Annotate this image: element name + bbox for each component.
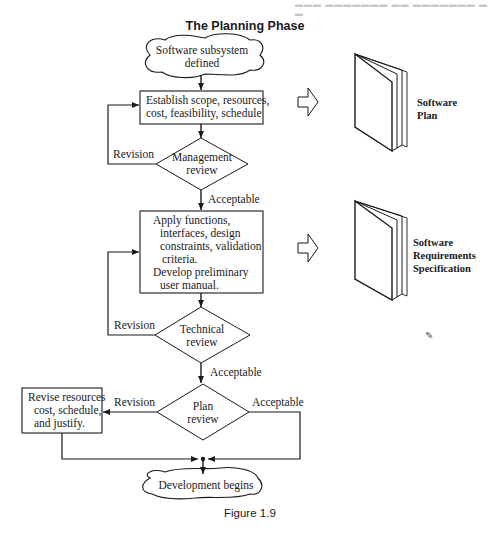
apply-line-5: Develop preliminary (153, 266, 262, 279)
plan-acceptable-label: Acceptable (252, 396, 304, 409)
technical-revision-label: Revision (114, 319, 155, 332)
establish-node-label: Establish scope, resources, cost, feasib… (146, 94, 269, 120)
start-node-label: Software subsystem defined (150, 44, 254, 70)
end-node-label: Development begins (150, 479, 262, 492)
apply-line-4: criteria. (153, 253, 262, 266)
technical-review-label: Technical review (166, 323, 238, 349)
document-booklet-icon (355, 201, 407, 300)
srs-output-line-3: Specification (413, 262, 476, 275)
plan-line-1: Plan (172, 400, 234, 413)
establish-line-1: Establish scope, resources, (146, 94, 269, 107)
hollow-arrow-icon (298, 234, 318, 262)
hollow-arrow-icon (298, 88, 318, 116)
establish-line-2: cost, feasibility, schedule (146, 107, 269, 120)
management-review-label: Management review (166, 151, 238, 177)
apply-line-3: constraints, validation (153, 240, 262, 253)
apply-line-2: interfaces, design (153, 227, 262, 240)
management-revision-label: Revision (113, 148, 154, 161)
srs-output-line-2: Requirements (413, 249, 476, 262)
apply-node-label: Apply functions, interfaces, design cons… (153, 214, 262, 292)
planning-phase-flowchart: ▬▬▬ ▬▬▬▬▬▬▬ ▬▬ ▬▬▬▬▬▬▬ ▬ ▬ (0, 0, 492, 538)
plan-review-label: Plan review (172, 400, 234, 426)
output-software-plan-label: Software Plan (417, 96, 457, 122)
plan-output-line-2: Plan (417, 109, 457, 122)
technical-acceptable-label: Acceptable (210, 366, 262, 379)
output-srs-label: Software Requirements Specification (413, 236, 476, 275)
technical-line-2: review (166, 336, 238, 349)
plan-output-line-1: Software (417, 96, 457, 109)
diagram-title: The Planning Phase (150, 20, 340, 33)
revise-line-3: and justify. (28, 417, 106, 430)
start-line-2: defined (150, 57, 254, 70)
revise-node-label: Revise resources cost, schedule, and jus… (28, 391, 106, 430)
management-acceptable-label: Acceptable (208, 193, 260, 206)
plan-revision-label: Revision (114, 396, 155, 409)
ink-speck: ✎ (425, 330, 433, 341)
document-booklet-icon (355, 54, 407, 151)
apply-line-6: user manual. (153, 279, 262, 292)
figure-caption: Figure 1.9 (224, 507, 276, 520)
management-line-2: review (166, 164, 238, 177)
management-line-1: Management (166, 151, 238, 164)
revise-line-2: cost, schedule, (28, 404, 106, 417)
technical-line-1: Technical (166, 323, 238, 336)
revise-line-1: Revise resources (28, 391, 106, 404)
start-line-1: Software subsystem (150, 44, 254, 57)
plan-line-2: review (172, 413, 234, 426)
srs-output-line-1: Software (413, 236, 476, 249)
apply-line-1: Apply functions, (153, 214, 262, 227)
